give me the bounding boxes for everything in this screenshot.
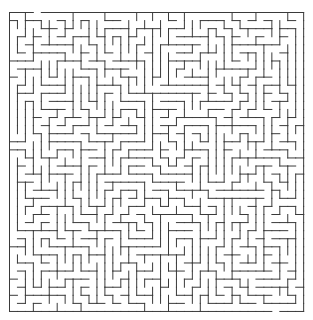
maze-grid (0, 0, 313, 320)
maze-board (0, 0, 313, 320)
maze-walls (10, 13, 304, 312)
